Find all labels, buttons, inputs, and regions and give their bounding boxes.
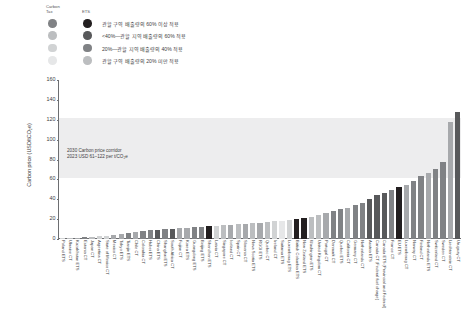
bar-cell[interactable] <box>249 80 256 239</box>
bar[interactable] <box>243 224 248 239</box>
bar[interactable] <box>257 223 262 239</box>
bar[interactable] <box>396 187 401 239</box>
bar[interactable] <box>411 181 416 239</box>
bar[interactable] <box>126 233 131 239</box>
bar[interactable] <box>309 217 314 239</box>
bar[interactable] <box>82 237 87 239</box>
bar[interactable] <box>360 203 365 239</box>
bar-cell[interactable] <box>198 80 205 239</box>
bar[interactable] <box>448 122 453 239</box>
bar[interactable] <box>184 228 189 239</box>
bar-cell[interactable] <box>103 80 110 239</box>
bar[interactable] <box>455 112 460 239</box>
bar-cell[interactable] <box>359 80 366 239</box>
bar-cell[interactable] <box>132 80 139 239</box>
bar-cell[interactable] <box>176 80 183 239</box>
bar-cell[interactable] <box>59 80 66 239</box>
bar[interactable] <box>287 220 292 239</box>
bar[interactable] <box>111 235 116 239</box>
bar-cell[interactable] <box>96 80 103 239</box>
bar[interactable] <box>367 199 372 239</box>
bar-cell[interactable] <box>256 80 263 239</box>
bar-cell[interactable] <box>205 80 212 239</box>
bar[interactable] <box>353 205 358 239</box>
bar-cell[interactable] <box>278 80 285 239</box>
bar[interactable] <box>206 226 211 239</box>
bar-cell[interactable] <box>337 80 344 239</box>
bar-cell[interactable] <box>373 80 380 239</box>
bar[interactable] <box>374 195 379 239</box>
bar[interactable] <box>279 221 284 239</box>
bar-cell[interactable] <box>293 80 300 239</box>
bar[interactable] <box>228 225 233 239</box>
bar-cell[interactable] <box>403 80 410 239</box>
bar[interactable] <box>294 219 299 239</box>
bar-cell[interactable] <box>447 80 454 239</box>
bar[interactable] <box>140 231 145 239</box>
bar[interactable] <box>250 223 255 239</box>
bar-cell[interactable] <box>439 80 446 239</box>
bar[interactable] <box>316 215 321 239</box>
bar-cell[interactable] <box>183 80 190 239</box>
bar[interactable] <box>89 237 94 239</box>
bar[interactable] <box>265 222 270 239</box>
bar-cell[interactable] <box>308 80 315 239</box>
bar[interactable] <box>60 238 65 239</box>
bar[interactable] <box>221 225 226 239</box>
bar[interactable] <box>272 221 277 239</box>
bar-cell[interactable] <box>322 80 329 239</box>
bar-cell[interactable] <box>381 80 388 239</box>
bar-cell[interactable] <box>352 80 359 239</box>
bar-cell[interactable] <box>388 80 395 239</box>
bar-cell[interactable] <box>154 80 161 239</box>
bar[interactable] <box>148 230 153 239</box>
bar-cell[interactable] <box>110 80 117 239</box>
bar[interactable] <box>323 213 328 239</box>
bar-cell[interactable] <box>264 80 271 239</box>
bar[interactable] <box>433 169 438 239</box>
bar-cell[interactable] <box>417 80 424 239</box>
bar[interactable] <box>177 228 182 239</box>
bar-cell[interactable] <box>118 80 125 239</box>
bar[interactable] <box>119 234 124 239</box>
bar-cell[interactable] <box>315 80 322 239</box>
bar-cell[interactable] <box>66 80 73 239</box>
bar[interactable] <box>155 230 160 239</box>
bar-cell[interactable] <box>88 80 95 239</box>
bar-cell[interactable] <box>330 80 337 239</box>
bar[interactable] <box>104 236 109 239</box>
bar-cell[interactable] <box>213 80 220 239</box>
bar-cell[interactable] <box>395 80 402 239</box>
bar[interactable] <box>97 236 102 239</box>
bar-cell[interactable] <box>81 80 88 239</box>
bar[interactable] <box>389 190 394 239</box>
bar-cell[interactable] <box>271 80 278 239</box>
bar[interactable] <box>382 193 387 239</box>
bar-cell[interactable] <box>410 80 417 239</box>
bar[interactable] <box>418 176 423 239</box>
bar-cell[interactable] <box>125 80 132 239</box>
bar-cell[interactable] <box>242 80 249 239</box>
bar[interactable] <box>404 185 409 239</box>
bar[interactable] <box>426 173 431 239</box>
bar-cell[interactable] <box>366 80 373 239</box>
bar-cell[interactable] <box>191 80 198 239</box>
bar-cell[interactable] <box>161 80 168 239</box>
bar-cell[interactable] <box>220 80 227 239</box>
bar[interactable] <box>133 232 138 239</box>
bar-cell[interactable] <box>227 80 234 239</box>
bar-cell[interactable] <box>300 80 307 239</box>
bar-cell[interactable] <box>147 80 154 239</box>
bar[interactable] <box>214 226 219 239</box>
bar[interactable] <box>301 218 306 239</box>
bar-cell[interactable] <box>344 80 351 239</box>
bar-cell[interactable] <box>432 80 439 239</box>
bar[interactable] <box>199 227 204 239</box>
bar[interactable] <box>440 162 445 240</box>
bar-cell[interactable] <box>454 80 461 239</box>
bar[interactable] <box>338 209 343 239</box>
bar[interactable] <box>67 238 72 239</box>
bar[interactable] <box>331 211 336 239</box>
bar-cell[interactable] <box>235 80 242 239</box>
bar[interactable] <box>345 208 350 239</box>
